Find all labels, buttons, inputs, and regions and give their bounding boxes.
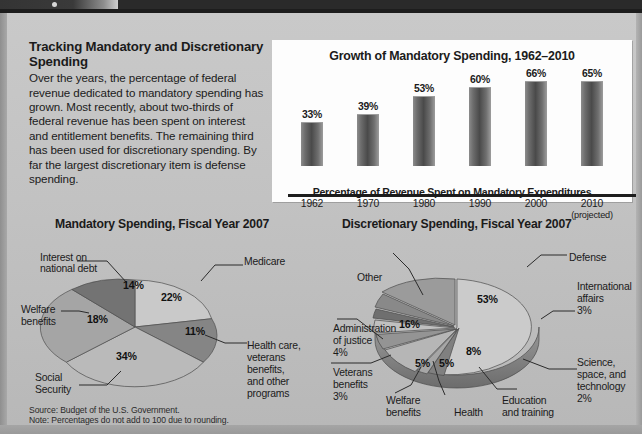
discretionary-pct-education: 8% <box>466 345 481 357</box>
mandatory-pct-welfare: 18% <box>87 313 108 325</box>
source-note: Source: Budget of the U.S. Government. N… <box>29 405 229 426</box>
discretionary-label-intl-line2: affairs <box>577 293 604 305</box>
infographic-figure: Tracking Mandatory and Discretionary Spe… <box>0 0 642 434</box>
mandatory-label-health-line3: benefits, <box>247 364 284 376</box>
discretionary-label-admin-line1: Administration <box>333 323 396 335</box>
panel-edge-bottom <box>0 425 642 434</box>
bar-value-label: 39% <box>358 101 378 112</box>
mandatory-pct-medicare: 22% <box>161 291 182 303</box>
mandatory-label-interest-line1: Interest on <box>40 252 87 264</box>
bar-column-1980: 53% <box>396 68 452 166</box>
mandatory-pie-title: Mandatory Spending, Fiscal Year 2007 <box>55 217 269 231</box>
bar-rect <box>581 81 603 166</box>
discretionary-label-other: Other <box>357 272 382 284</box>
bar-xlabel-1970: 1970 <box>340 198 396 209</box>
discretionary-label-veterans-line3: 3% <box>333 391 348 403</box>
discretionary-label-education-line1: Education <box>502 395 546 407</box>
mandatory-pct-interest: 14% <box>123 279 144 291</box>
discretionary-label-education-line2: and training <box>502 407 554 419</box>
discretionary-label-welfare-line2: benefits <box>386 407 421 419</box>
mandatory-label-welfare-line1: Welfare <box>21 304 55 316</box>
bar-rect <box>301 122 323 166</box>
bar-xsublabel-2010: (projected) <box>564 210 620 220</box>
mandatory-pct-social-security: 34% <box>116 350 137 362</box>
discretionary-label-admin-line3: 4% <box>333 347 348 359</box>
mandatory-label-welfare-line2: benefits <box>21 316 56 328</box>
discretionary-pct-health: 5% <box>439 357 454 369</box>
discretionary-label-veterans-line1: Veterans <box>333 367 372 379</box>
discretionary-label-intl-line3: 3% <box>577 305 592 317</box>
discretionary-label-defense: Defense <box>569 252 606 264</box>
mandatory-label-social-line2: Security <box>35 384 71 396</box>
discretionary-pct-defense: 53% <box>477 293 498 305</box>
mandatory-label-interest-line2: national debt <box>40 263 97 275</box>
page-title: Tracking Mandatory and Discretionary Spe… <box>29 40 267 69</box>
discretionary-label-welfare-line1: Welfare <box>386 395 420 407</box>
bar-xlabel-2000: 2000 <box>508 198 564 209</box>
bar-value-label: 33% <box>302 109 322 120</box>
discretionary-label-science-line3: technology <box>577 381 625 393</box>
bar-rect <box>357 114 379 166</box>
bar-value-label: 65% <box>582 68 602 79</box>
mandatory-pct-health: 11% <box>185 325 205 337</box>
bar-rect <box>525 81 547 166</box>
bar-xlabel-2010: 2010 <box>564 198 620 209</box>
top-header-bar <box>0 0 642 9</box>
bar-value-label: 60% <box>470 74 490 85</box>
discretionary-pie-title: Discretionary Spending, Fiscal Year 2007 <box>342 217 572 231</box>
bar-column-2000: 66% <box>508 68 564 166</box>
discretionary-label-admin-line2: of justice <box>333 335 372 347</box>
bar-chart-card: Growth of Mandatory Spending, 1962–2010 … <box>272 40 632 202</box>
bar-column-1962: 33% <box>284 68 340 166</box>
bar-rect <box>469 87 491 166</box>
discretionary-label-veterans-line2: benefits <box>333 379 368 391</box>
discretionary-pct-other: 16% <box>399 318 420 330</box>
discretionary-label-health: Health <box>454 407 483 419</box>
mandatory-label-health-line2: veterans <box>247 352 285 364</box>
panel-edge-left <box>0 13 7 434</box>
bar-chart-title: Growth of Mandatory Spending, 1962–2010 <box>272 49 632 63</box>
bar-column-2010: 65% <box>564 68 620 166</box>
intro-block: Tracking Mandatory and Discretionary Spe… <box>29 40 267 186</box>
bar-rect <box>413 96 435 166</box>
mandatory-label-health-line5: programs <box>247 388 289 400</box>
intro-paragraph: Over the years, the percentage of federa… <box>29 71 267 186</box>
panel-edge-right <box>636 13 642 434</box>
bar-column-1970: 39% <box>340 68 396 166</box>
discretionary-label-science-line2: space, and <box>577 369 626 381</box>
source-line: Source: Budget of the U.S. Government. <box>29 405 229 415</box>
mandatory-label-medicare: Medicare <box>244 256 285 268</box>
header-tab-shape <box>0 0 118 9</box>
note-line: Note: Percentages do not add to 100 due … <box>29 415 229 425</box>
bar-column-1990: 60% <box>452 68 508 166</box>
mandatory-label-health-line1: Health care, <box>247 340 301 352</box>
header-dot-icon <box>52 2 57 7</box>
discretionary-label-science-line1: Science, <box>577 357 615 369</box>
discretionary-pct-welfare: 5% <box>415 357 430 369</box>
bar-value-label: 66% <box>526 68 546 79</box>
discretionary-label-science-line4: 2% <box>577 393 592 405</box>
bar-chart-plot: 33% 39% 53% 60% <box>284 68 620 166</box>
bar-xlabel-1962: 1962 <box>284 198 340 209</box>
bar-xlabel-1990: 1990 <box>452 198 508 209</box>
bar-value-label: 53% <box>414 83 434 94</box>
mandatory-label-social-line1: Social <box>35 372 62 384</box>
bar-chart-axis-title: Percentage of Revenue Spent on Mandatory… <box>272 186 632 198</box>
mandatory-label-health-line4: and other <box>247 376 289 388</box>
discretionary-label-intl-line1: International <box>577 281 632 293</box>
bar-xlabel-1980: 1980 <box>396 198 452 209</box>
content-panel: Tracking Mandatory and Discretionary Spe… <box>7 13 636 425</box>
